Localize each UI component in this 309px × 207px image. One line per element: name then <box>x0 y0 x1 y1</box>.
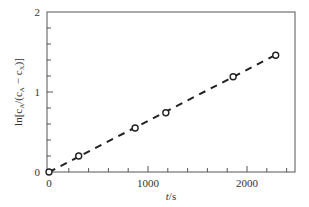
data-point-marker <box>163 110 169 116</box>
x-axis-title: t/s <box>166 190 176 202</box>
y-axis-title: ln[cA/(cA − cX)] <box>12 58 26 126</box>
x-tick-label: 2000 <box>236 177 259 189</box>
x-tick-label: 1000 <box>137 177 160 189</box>
y-axis-ticks: 012 <box>35 6 54 178</box>
data-point-marker <box>132 125 138 131</box>
chart: 010002000 012 t/s ln[cA/(cA − cX)] <box>0 0 309 207</box>
plot-frame <box>47 12 295 172</box>
y-tick-label: 1 <box>35 86 41 98</box>
data-point-marker <box>76 153 82 159</box>
x-axis-ticks: 010002000 <box>46 166 286 189</box>
data-point-marker <box>46 169 52 175</box>
data-point-marker <box>273 52 279 58</box>
data-point-marker <box>230 74 236 80</box>
data-points <box>46 52 279 175</box>
x-tick-label: 0 <box>46 177 52 189</box>
y-tick-label: 2 <box>35 6 41 18</box>
y-tick-label: 0 <box>35 166 41 178</box>
